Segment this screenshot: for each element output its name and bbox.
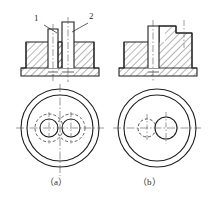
callout-label-2: 2 — [89, 12, 94, 21]
sectional-view-b — [118, 20, 200, 82]
plan-view-a — [16, 84, 104, 176]
drawing-sheet: 1 2 （a） （b） — [0, 0, 218, 197]
caption-b: （b） — [138, 178, 161, 187]
callout-label-1: 1 — [34, 14, 39, 23]
boss-outline-b — [148, 26, 159, 68]
between-boss-hatch-a — [58, 42, 62, 68]
plan-view-b — [113, 89, 201, 167]
technical-drawing-canvas — [0, 0, 218, 197]
caption-a: （a） — [45, 178, 67, 187]
sectional-view-a — [20, 17, 100, 82]
